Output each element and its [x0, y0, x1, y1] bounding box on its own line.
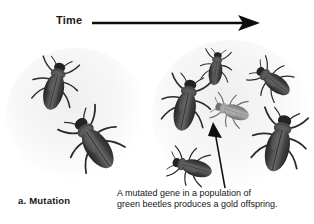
beetle-dark-6: [243, 103, 314, 182]
caption-line-1: A mutated gene in a population of: [117, 188, 312, 199]
panel-letter-label: a. Mutation: [18, 195, 70, 206]
callout-arrow-icon: [204, 120, 240, 194]
caption-line-2: green beetles produces a gold offspring.: [117, 199, 312, 210]
figure-caption: A mutated gene in a population of green …: [117, 188, 312, 210]
timeline-label: Time: [56, 14, 82, 26]
figure-mutation-panel: Time: [0, 0, 314, 224]
beetle-dark-1: [24, 53, 86, 119]
timeline-right-arrow-icon: [92, 12, 262, 38]
